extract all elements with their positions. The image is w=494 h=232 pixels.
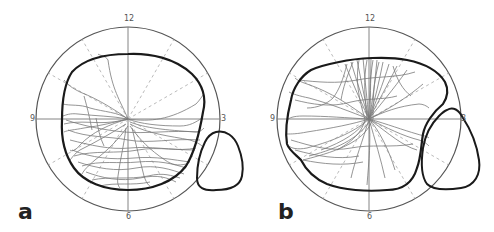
panel-b: 12 3 6 9 b: [247, 0, 494, 232]
perimetry-plot-a: [0, 0, 247, 232]
panel-a: 12 3 6 9 a: [0, 0, 247, 232]
blind-spot-outline: [422, 108, 480, 189]
clock-label-6: 6: [367, 213, 372, 221]
perimetry-plot-b: [247, 0, 494, 232]
clock-label-3: 3: [221, 115, 226, 123]
clock-label-6: 6: [126, 213, 131, 221]
panel-label-a: a: [18, 201, 33, 223]
clock-label-3: 3: [461, 115, 466, 123]
clock-label-9: 9: [30, 115, 35, 123]
clock-label-9: 9: [270, 115, 275, 123]
clock-label-12: 12: [124, 15, 134, 23]
clock-label-12: 12: [365, 15, 375, 23]
blind-spot-outline: [197, 132, 243, 191]
scanpath-traces: [63, 54, 204, 188]
scanpath-traces: [287, 58, 429, 185]
panel-label-b: b: [278, 201, 294, 223]
